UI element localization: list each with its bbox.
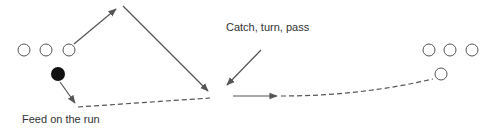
player-circle (18, 44, 30, 56)
receiver-circle (435, 68, 447, 80)
feed-on-the-run-label: Feed on the run (22, 113, 100, 125)
player-circle (444, 44, 456, 56)
player-circle (466, 44, 478, 56)
player-circle (63, 44, 75, 56)
carrier-arrow (60, 82, 75, 103)
play-diagram (0, 0, 496, 129)
left-players-group (18, 44, 75, 56)
catch-turn-pass-label: Catch, turn, pass (226, 21, 309, 33)
run-arrow-diagonal (123, 6, 208, 91)
long-pass-dashed (281, 79, 433, 96)
run-arrow-up (74, 9, 116, 44)
right-players-group (423, 44, 478, 56)
feed-pass-dashed (78, 98, 210, 107)
callout-arrow (227, 50, 261, 85)
player-circle (423, 44, 435, 56)
player-circle (40, 44, 52, 56)
ball-carrier-dot (51, 67, 65, 81)
